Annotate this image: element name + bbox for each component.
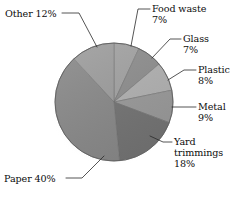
- slice-label-yard-trimmings: Yard trimmings 18%: [174, 136, 223, 170]
- slice-label-food-waste-name: Food waste: [152, 3, 206, 14]
- slice-label-plastic-value: 8%: [198, 75, 230, 86]
- leader-line-food-waste: [131, 9, 150, 46]
- slice-label-glass-name: Glass: [183, 33, 209, 44]
- slice-label-other: Other 12%: [5, 8, 57, 19]
- slice-label-glass-value: 7%: [183, 44, 209, 55]
- slice-label-paper-text: Paper 40%: [4, 173, 56, 184]
- slice-label-metal: Metal 9%: [198, 101, 226, 123]
- slice-label-paper: Paper 40%: [4, 173, 56, 184]
- pie-sheen: [55, 43, 173, 161]
- slice-label-metal-value: 9%: [198, 112, 226, 123]
- slice-label-food-waste-value: 7%: [152, 14, 206, 25]
- leader-line-other: [62, 13, 97, 47]
- pie-chart-figure: Other 12% Food waste 7% Glass 7% Plastic…: [0, 0, 235, 207]
- slice-label-yard-line1: Yard: [174, 136, 196, 147]
- slice-label-food-waste: Food waste 7%: [152, 3, 206, 25]
- leader-line-plastic: [168, 70, 196, 80]
- leader-line-glass: [152, 39, 181, 58]
- slice-label-plastic-name: Plastic: [198, 64, 230, 75]
- slice-label-other-text: Other 12%: [5, 8, 57, 19]
- slice-label-metal-name: Metal: [198, 101, 226, 112]
- slice-label-plastic: Plastic 8%: [198, 64, 230, 86]
- slice-label-yard-value: 18%: [174, 158, 223, 169]
- slice-label-yard-line2: trimmings: [174, 147, 223, 158]
- slice-label-glass: Glass 7%: [183, 33, 209, 55]
